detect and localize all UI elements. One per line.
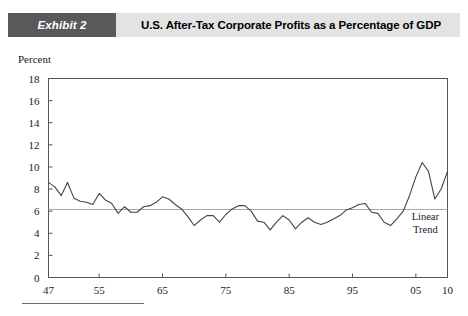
exhibit-title: U.S. After-Tax Corporate Profits as a Pe…: [116, 13, 460, 37]
x-axis-tick-marks: [99, 274, 416, 278]
y-tick-label: 18: [29, 73, 41, 85]
plot-frame: [49, 79, 448, 278]
y-tick-label: 6: [34, 205, 40, 217]
x-tick-label: 85: [284, 284, 296, 296]
x-tick-label: 75: [220, 284, 232, 296]
y-tick-label: 4: [34, 227, 40, 239]
x-tick-label: 10: [442, 284, 454, 296]
x-tick-label: 55: [94, 284, 106, 296]
y-tick-label: 2: [34, 249, 40, 261]
y-tick-label: 14: [29, 117, 41, 129]
y-tick-label: 16: [29, 95, 41, 107]
y-axis-tick-marks: [49, 101, 53, 256]
footnote-divider: [22, 303, 144, 304]
linear-trend-annotation-line1: Linear: [412, 211, 440, 222]
x-tick-label: 95: [347, 284, 359, 296]
x-tick-label: 65: [157, 284, 169, 296]
x-tick-label: 47: [43, 284, 55, 296]
y-tick-label: 10: [29, 161, 41, 173]
y-tick-label: 12: [29, 139, 40, 151]
x-tick-label: 05: [410, 284, 422, 296]
x-axis-tick-labels: 4755657585950510: [43, 284, 454, 296]
chart-container: Percent 181614121086420 4755657585950510…: [0, 37, 468, 297]
line-chart: 181614121086420 4755657585950510 Linear …: [0, 37, 468, 297]
linear-trend-annotation-line2: Trend: [413, 224, 438, 235]
y-tick-label: 8: [34, 183, 40, 195]
y-tick-label: 0: [34, 272, 40, 284]
exhibit-header: Exhibit 2 U.S. After-Tax Corporate Profi…: [8, 13, 460, 37]
profits-data-line: [49, 163, 448, 230]
exhibit-badge: Exhibit 2: [8, 13, 116, 37]
y-axis-tick-labels: 181614121086420: [29, 73, 41, 284]
